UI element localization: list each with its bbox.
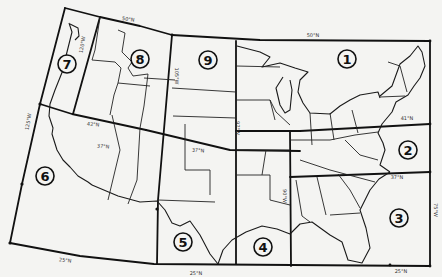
grid-label: 42°N xyxy=(87,120,100,127)
region-markers: 123456789 xyxy=(36,50,417,256)
region-number: 2 xyxy=(403,143,412,158)
grid-line-105w xyxy=(157,35,172,264)
grid-line-37n xyxy=(146,130,300,151)
grid-label: 90°W xyxy=(282,189,288,203)
region-marker-2: 2 xyxy=(399,141,417,159)
grid-line-41n xyxy=(300,124,430,131)
grid-label: 25°N xyxy=(190,270,203,276)
region-number: 3 xyxy=(394,211,403,226)
grid-label: 25°N xyxy=(395,268,408,274)
grid-line-50n-west xyxy=(65,8,172,35)
grid-label: 50°N xyxy=(307,32,320,38)
grid-line-37n-east xyxy=(290,172,430,177)
region-number: 8 xyxy=(135,52,144,67)
grid-label: 25°N xyxy=(59,256,72,264)
us-region-map: 50°N50°N41°N37°N120°W105°W97°W90°W75°W12… xyxy=(0,0,442,277)
region-marker-9: 9 xyxy=(199,51,217,69)
grid-label: 97°W xyxy=(235,121,241,135)
region-marker-5: 5 xyxy=(174,233,192,251)
grid-line-120w xyxy=(73,17,100,114)
grid-label: 125°W xyxy=(24,113,33,131)
grid-label: 37°N xyxy=(391,174,404,180)
grid-label: 105°W xyxy=(174,68,180,85)
region-number: 6 xyxy=(40,169,49,184)
lake-michigan xyxy=(276,77,292,113)
grid-label: 75°W xyxy=(433,203,439,217)
region-marker-1: 1 xyxy=(338,50,356,68)
region-number: 5 xyxy=(178,235,187,250)
state-boundaries xyxy=(92,17,407,222)
region-marker-4: 4 xyxy=(254,238,272,256)
grid-line-90w xyxy=(290,131,291,266)
grid-labels: 50°N50°N41°N37°N120°W105°W97°W90°W75°W12… xyxy=(24,15,439,276)
great-lakes xyxy=(237,46,380,114)
region-number: 4 xyxy=(258,240,267,255)
region-grid xyxy=(10,8,430,266)
region-number: 7 xyxy=(62,57,71,72)
grid-label: 37°N xyxy=(192,147,205,154)
grid-line-50n-east xyxy=(172,35,430,41)
region-number: 9 xyxy=(203,53,212,68)
region-marker-6: 6 xyxy=(36,167,54,185)
region-marker-8: 8 xyxy=(131,50,149,68)
grid-line-west xyxy=(10,8,65,243)
region-marker-3: 3 xyxy=(390,209,408,227)
region-number: 1 xyxy=(342,52,351,67)
grid-label: 37°N xyxy=(97,142,110,149)
region-marker-7: 7 xyxy=(58,55,76,73)
grid-label: 120°W xyxy=(78,36,87,54)
grid-label: 41°N xyxy=(401,115,414,121)
mexico-border xyxy=(92,185,218,264)
puget-sound xyxy=(70,24,79,40)
